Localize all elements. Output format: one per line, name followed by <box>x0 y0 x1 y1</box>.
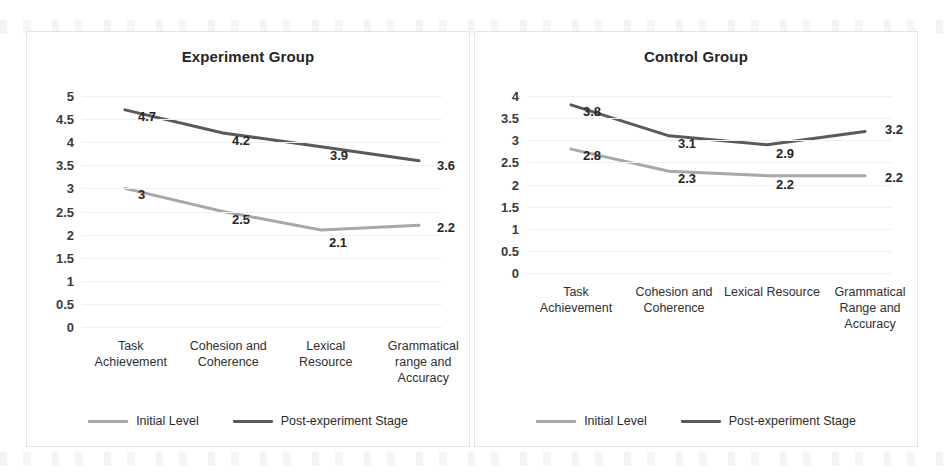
y-axis-tick-label: 2.5 <box>501 155 519 170</box>
x-axis-category-label: Cohesion andCoherence <box>625 284 723 332</box>
y-gridline <box>527 229 892 230</box>
data-point-label: 3.6 <box>437 157 455 172</box>
x-axis-category-label: TaskAchievement <box>82 338 180 386</box>
line-series-post-experiment-stage <box>571 105 865 145</box>
chart-panel-control-group: Control Group 43.532.521.510.502.82.32.2… <box>474 31 918 447</box>
y-axis-tick-label: 2.5 <box>56 204 74 219</box>
x-axis-category-line: Coherence <box>181 354 277 370</box>
y-axis-tick-label: 1.5 <box>56 250 74 265</box>
x-axis-category-line: Task <box>528 284 624 300</box>
x-axis-category-line: Coherence <box>626 300 722 316</box>
data-point-label: 3.8 <box>583 103 601 118</box>
x-axis-category-line: Task <box>83 338 179 354</box>
data-point-label: 3.2 <box>885 122 903 137</box>
x-axis-category-line: Accuracy <box>376 370 472 386</box>
data-point-label: 4.2 <box>232 132 250 147</box>
data-point-label: 3 <box>138 187 145 202</box>
figure-two-line-charts: Experiment Group 54.543.532.521.510.5032… <box>0 0 944 475</box>
data-point-label: 2.2 <box>776 176 794 191</box>
y-axis-tick-label: 5 <box>67 89 74 104</box>
y-axis-tick-label: 0 <box>512 266 519 281</box>
y-gridline <box>527 162 892 163</box>
x-axis-category-line: Accuracy <box>822 316 918 332</box>
y-gridline <box>527 185 892 186</box>
data-point-label: 2.2 <box>437 220 455 235</box>
y-gridline <box>527 118 892 119</box>
x-axis-category-line: Grammatical <box>822 284 918 300</box>
y-axis-tick-label: 4.5 <box>56 112 74 127</box>
data-point-label: 2.3 <box>678 171 696 186</box>
legend-label-post-experiment-stage: Post-experiment Stage <box>729 414 856 428</box>
y-axis-tick-label: 4 <box>67 135 74 150</box>
legend-line-swatch-initial-icon <box>536 420 576 423</box>
data-point-label: 2.2 <box>885 169 903 184</box>
chart-panel-experiment-group: Experiment Group 54.543.532.521.510.5032… <box>26 31 470 447</box>
legend-label-initial-level: Initial Level <box>136 414 199 428</box>
x-axis-category-label: GrammaticalRange andAccuracy <box>821 284 919 332</box>
y-gridline <box>82 235 442 236</box>
y-gridline <box>82 142 442 143</box>
x-axis-category-label: TaskAchievement <box>527 284 625 332</box>
legend-item-post-experiment-stage[interactable]: Post-experiment Stage <box>681 414 856 428</box>
y-gridline <box>82 212 442 213</box>
y-gridline <box>527 273 892 274</box>
legend-label-post-experiment-stage: Post-experiment Stage <box>281 414 408 428</box>
y-axis-tick-label: 2 <box>512 177 519 192</box>
data-point-label: 2.1 <box>329 234 347 249</box>
x-axis-category-line: Cohesion and <box>181 338 277 354</box>
y-axis-tick-label: 3.5 <box>501 111 519 126</box>
y-axis-tick-label: 4 <box>512 89 519 104</box>
data-point-label: 2.8 <box>583 148 601 163</box>
y-axis-tick-label: 2 <box>67 227 74 242</box>
y-axis-tick-label: 1 <box>67 273 74 288</box>
y-gridline <box>527 96 892 97</box>
legend-label-initial-level: Initial Level <box>584 414 647 428</box>
legend-experiment-group: Initial Level Post-experiment Stage <box>27 414 469 428</box>
x-axis-categories-control-group: TaskAchievementCohesion andCoherenceLexi… <box>527 284 919 332</box>
y-gridline <box>527 207 892 208</box>
line-series-initial-level <box>125 188 419 230</box>
y-axis-tick-label: 1.5 <box>501 199 519 214</box>
legend-item-post-experiment-stage[interactable]: Post-experiment Stage <box>233 414 408 428</box>
x-axis-category-label: Cohesion andCoherence <box>180 338 278 386</box>
x-axis-category-line: Achievement <box>83 354 179 370</box>
y-gridline <box>82 188 442 189</box>
y-gridline <box>82 304 442 305</box>
data-point-label: 3.1 <box>678 135 696 150</box>
y-axis-tick-label: 0 <box>67 320 74 335</box>
y-gridline <box>527 140 892 141</box>
plot-area-control-group: 43.532.521.510.502.82.32.22.23.83.12.93.… <box>527 96 892 273</box>
y-gridline <box>82 119 442 120</box>
legend-item-initial-level[interactable]: Initial Level <box>536 414 647 428</box>
legend-control-group: Initial Level Post-experiment Stage <box>475 414 917 428</box>
y-gridline <box>527 251 892 252</box>
legend-item-initial-level[interactable]: Initial Level <box>88 414 199 428</box>
legend-line-swatch-post-icon <box>233 420 273 423</box>
data-point-label: 2.9 <box>776 145 794 160</box>
data-point-label: 3.9 <box>330 147 348 162</box>
y-axis-tick-label: 0.5 <box>56 296 74 311</box>
data-point-label: 2.5 <box>232 211 250 226</box>
x-axis-category-label: LexicalResource <box>277 338 375 386</box>
y-axis-tick-label: 3 <box>67 181 74 196</box>
x-axis-categories-experiment-group: TaskAchievementCohesion andCoherenceLexi… <box>82 338 472 386</box>
y-gridline <box>82 281 442 282</box>
x-axis-category-line: Achievement <box>528 300 624 316</box>
y-gridline <box>82 165 442 166</box>
line-series-post-experiment-stage <box>125 110 419 161</box>
y-axis-tick-label: 3.5 <box>56 158 74 173</box>
y-gridline <box>82 258 442 259</box>
data-point-label: 4.7 <box>138 108 156 123</box>
plot-area-experiment-group: 54.543.532.521.510.5032.52.12.24.74.23.9… <box>82 96 442 327</box>
legend-line-swatch-initial-icon <box>88 420 128 423</box>
y-axis-tick-label: 0.5 <box>501 243 519 258</box>
y-gridline <box>82 96 442 97</box>
x-axis-category-line: Lexical Resource <box>724 284 820 300</box>
x-axis-category-line: Resource <box>278 354 374 370</box>
y-axis-tick-label: 1 <box>512 221 519 236</box>
legend-line-swatch-post-icon <box>681 420 721 423</box>
x-axis-category-line: Range and <box>822 300 918 316</box>
chart-title-control-group: Control Group <box>475 48 917 65</box>
x-axis-category-line: Grammatical <box>376 338 472 354</box>
x-axis-category-line: Lexical <box>278 338 374 354</box>
